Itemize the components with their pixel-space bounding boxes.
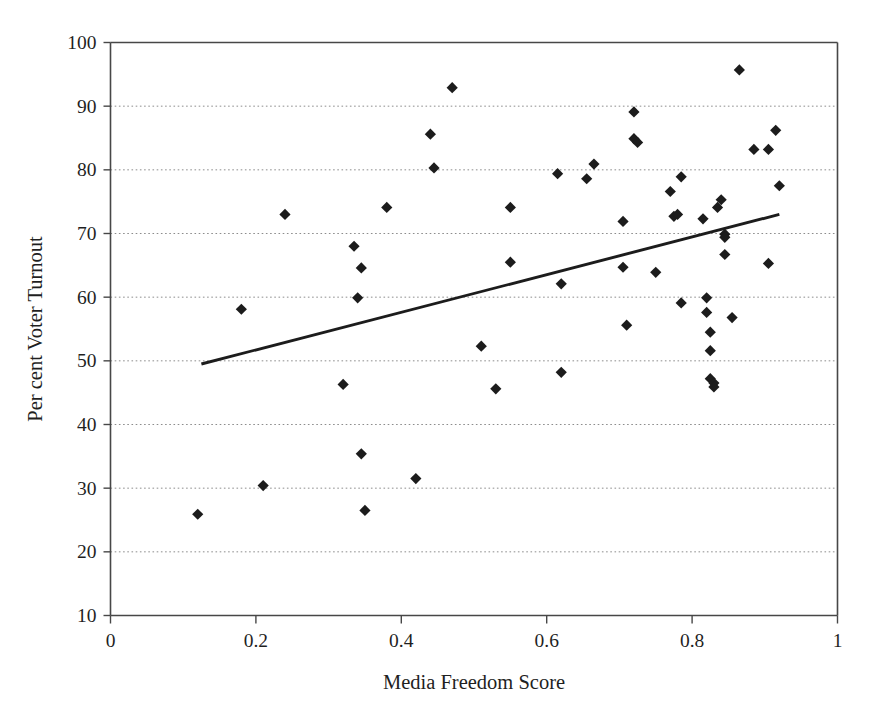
data-point-marker [359, 505, 370, 516]
data-point-marker [556, 278, 567, 289]
data-point-marker [476, 341, 487, 352]
x-ticklabel: 0.2 [244, 630, 268, 651]
data-point-marker [410, 473, 421, 484]
x-axis-title: Media Freedom Score [383, 671, 565, 693]
y-ticklabel: 100 [67, 32, 96, 53]
data-point-marker [552, 168, 563, 179]
data-point-marker [774, 180, 785, 191]
data-point-marker [236, 304, 247, 315]
data-point-marker [621, 320, 632, 331]
y-ticklabel-group: 102030405060708090100 [67, 32, 96, 626]
data-point-marker [697, 213, 708, 224]
data-point-marker [705, 345, 716, 356]
data-point-marker [348, 241, 359, 252]
data-point-marker [734, 64, 745, 75]
data-point-marker [763, 144, 774, 155]
data-point-marker [763, 258, 774, 269]
x-ticklabel: 0 [106, 630, 116, 651]
data-point-marker [617, 262, 628, 273]
data-point-marker [665, 186, 676, 197]
data-point-marker [356, 448, 367, 459]
data-point-marker [588, 159, 599, 170]
y-ticklabel: 50 [77, 350, 97, 371]
y-ticklabel: 40 [77, 414, 97, 435]
y-ticklabel: 10 [77, 605, 97, 626]
y-ticklabel: 60 [77, 287, 97, 308]
data-point-marker [581, 173, 592, 184]
y-ticklabel: 30 [77, 478, 97, 499]
chart-canvas: 102030405060708090100 00.20.40.60.81 Per… [0, 0, 876, 714]
y-ticklabel: 80 [77, 159, 97, 180]
data-point-marker [770, 125, 781, 136]
data-point-marker [676, 297, 687, 308]
data-point-marker [428, 162, 439, 173]
data-point-marker [748, 144, 759, 155]
x-ticklabel: 0.8 [680, 630, 704, 651]
x-ticklabel-group: 00.20.40.60.81 [106, 630, 843, 651]
data-point-marker [650, 267, 661, 278]
y-axis-title: Per cent Voter Turnout [24, 236, 46, 422]
data-point-marker [676, 171, 687, 182]
data-point-marker [279, 209, 290, 220]
y-tick-group [104, 43, 111, 616]
data-point-marker [556, 367, 567, 378]
data-point-marker [192, 509, 203, 520]
data-point-marker [701, 292, 712, 303]
data-point-marker [381, 202, 392, 213]
scatter-plot-figure: 102030405060708090100 00.20.40.60.81 Per… [0, 0, 876, 714]
data-point-marker [617, 216, 628, 227]
data-point-marker [505, 257, 516, 268]
x-ticklabel: 0.4 [389, 630, 414, 651]
data-point-marker [701, 307, 712, 318]
y-ticklabel: 90 [77, 96, 97, 117]
data-point-marker [356, 262, 367, 273]
data-point-marker [719, 249, 730, 260]
gridlines-group [111, 106, 838, 552]
y-ticklabel: 20 [77, 541, 97, 562]
data-point-marker [705, 327, 716, 338]
axes-group [111, 43, 838, 616]
data-point-marker [352, 292, 363, 303]
x-tick-group [111, 616, 838, 624]
data-markers-group [192, 64, 785, 520]
y-ticklabel: 70 [77, 223, 97, 244]
trend-line [201, 214, 779, 364]
data-point-marker [338, 379, 349, 390]
data-point-marker [628, 106, 639, 117]
data-point-marker [425, 129, 436, 140]
data-point-marker [258, 480, 269, 491]
x-ticklabel: 0.6 [535, 630, 560, 651]
x-ticklabel: 1 [833, 630, 843, 651]
data-point-marker [447, 82, 458, 93]
data-point-marker [490, 383, 501, 394]
data-point-marker [726, 312, 737, 323]
data-point-marker [505, 202, 516, 213]
